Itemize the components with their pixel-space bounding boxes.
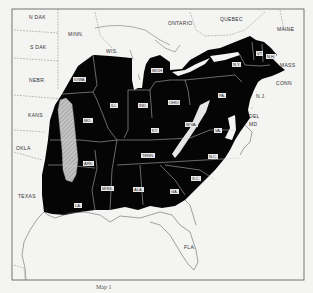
label-kans: KANS	[28, 112, 43, 118]
label-nj: N.J.	[256, 93, 266, 99]
label-s-dak: S DAK	[30, 44, 47, 50]
label-md: MD	[249, 121, 257, 127]
label-ga: GA.	[170, 189, 179, 194]
label-del: DEL	[249, 113, 260, 119]
label-iowa: IOWA	[73, 77, 86, 82]
label-mo: MO.	[83, 118, 93, 123]
label-ohio: OHIO	[168, 100, 180, 105]
label-ky: KY.	[151, 128, 159, 133]
label-fla: FLA.	[184, 244, 196, 250]
label-ontario: ONTARIO	[168, 20, 193, 26]
label-vt: VT	[256, 51, 263, 56]
label-texas: TEXAS	[18, 193, 36, 199]
label-minn: MINN.	[68, 31, 84, 37]
label-maine: MAINE	[277, 26, 294, 32]
label-ny: N.Y.	[232, 62, 241, 67]
label-ark: ARK.	[83, 161, 94, 166]
label-mass: MASS	[280, 62, 295, 68]
map-caption: Map 1	[96, 284, 112, 290]
label-quebec: QUEBEC	[220, 16, 243, 22]
label-wis: WIS.	[106, 48, 118, 54]
label-okla: OKLA	[16, 145, 31, 151]
label-va: VA.	[214, 128, 222, 133]
label-ala: ALA.	[133, 187, 144, 192]
label-wva: W.VA.	[185, 122, 198, 127]
label-sc: S.C.	[191, 176, 201, 181]
label-ill: ILL	[110, 103, 118, 108]
label-conn: CONN	[276, 80, 292, 86]
label-miss: MISS.	[101, 186, 114, 191]
label-tenn: TENN.	[141, 153, 155, 158]
label-mich: MICH	[151, 68, 163, 73]
label-la: LA.	[74, 203, 82, 208]
label-nh: N.H.	[266, 54, 276, 59]
label-nc: N.C.	[208, 154, 218, 159]
label-n-dak: N DAK	[29, 14, 46, 20]
label-ind: IND.	[138, 103, 148, 108]
label-pa: PA.	[218, 93, 226, 98]
label-nebr: NEBR.	[29, 77, 46, 83]
